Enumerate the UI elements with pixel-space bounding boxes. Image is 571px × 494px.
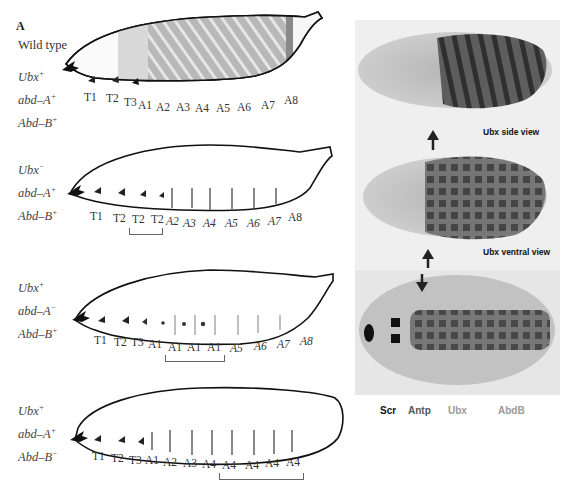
panel-b-photo: Ubx side view Ubx ventral view — [355, 20, 560, 395]
genotype-abd-b: Abd–B+ — [18, 110, 57, 133]
segment-label: A4 — [203, 217, 216, 229]
segment-label: A1 — [187, 341, 201, 353]
segment-label: A7 — [277, 338, 290, 350]
genotype-abd-b: Abd–B+ — [18, 321, 57, 344]
segment-label: T2 — [132, 213, 145, 225]
genotype-row-1: Ubx+ abd–A+ Abd–B+ — [18, 64, 57, 133]
segment-label: A1 — [138, 99, 152, 111]
segment-label: A6 — [237, 101, 251, 113]
segment-label: A1 — [207, 341, 221, 353]
segment-label: T3 — [131, 336, 144, 348]
legend-scr: Scr — [380, 405, 396, 416]
legend-antp: Antp — [408, 405, 431, 416]
segment-label: A4 — [202, 458, 216, 470]
legend-ubx: Ubx — [448, 405, 467, 416]
bracket-row-4 — [219, 473, 304, 480]
ubx-side-view-label: Ubx side view — [483, 127, 539, 137]
legend-abdb: AbdB — [498, 405, 525, 416]
segment-label: A1 — [148, 338, 162, 350]
larva-abd-a-minus — [72, 270, 333, 344]
segment-label: T1 — [94, 334, 107, 346]
segment-label: A4 — [245, 459, 259, 471]
segment-label: T3 — [129, 454, 142, 466]
segment-label: A4 — [265, 457, 279, 469]
genotype-row-4: Ubx+ abd–A+ Abd–B− — [18, 398, 57, 467]
arrow-up-icon — [422, 249, 434, 268]
genotype-ubx: Ubx+ — [18, 64, 57, 87]
segment-label: A6 — [254, 340, 267, 352]
segment-label: A8 — [288, 211, 302, 223]
segment-label: T2 — [113, 212, 126, 224]
segment-label: A4 — [222, 459, 236, 471]
segment-label: A4 — [286, 456, 300, 468]
segment-label: T2 — [151, 213, 164, 225]
segment-label: A2 — [166, 215, 179, 227]
segment-label: A1 — [145, 454, 159, 466]
segment-label: A3 — [183, 217, 196, 229]
embryo-images — [355, 20, 560, 395]
larva-ubx-minus — [67, 145, 332, 211]
segment-label: A8 — [300, 335, 313, 347]
arrow-up-icon — [427, 130, 439, 150]
segment-label: A5 — [230, 342, 243, 354]
segment-label: A5 — [216, 102, 230, 114]
segment-label: A4 — [195, 102, 209, 114]
embryo-multi-gene-view — [359, 275, 555, 385]
genotype-ubx: Ubx+ — [18, 398, 57, 421]
segment-label: T1 — [92, 450, 105, 462]
genotype-ubx: Ubx− — [18, 157, 57, 180]
genotype-abd-a: abd–A+ — [18, 180, 57, 203]
segment-label: A2 — [156, 101, 170, 113]
segment-label: T2 — [111, 452, 124, 464]
segment-label: A3 — [176, 101, 190, 113]
genotype-row-3: Ubx+ abd–A− Abd–B+ — [18, 275, 57, 344]
larva-wild-type — [62, 0, 333, 100]
bracket-row-3 — [165, 355, 225, 362]
segment-label: A8 — [284, 94, 298, 106]
genotype-ubx: Ubx+ — [18, 275, 57, 298]
segment-label: A2 — [163, 456, 177, 468]
wild-type-label: Wild type — [18, 38, 67, 53]
segment-label: A5 — [225, 217, 238, 229]
genotype-row-2: Ubx− abd–A+ Abd–B+ — [18, 157, 57, 226]
segment-label: T1 — [84, 91, 97, 103]
ubx-ventral-view-label: Ubx ventral view — [483, 247, 550, 257]
segment-label: A1 — [168, 341, 182, 353]
genotype-abd-b: Abd–B+ — [18, 203, 57, 226]
bracket-row-2 — [129, 228, 163, 235]
embryo-ventral-view — [363, 156, 547, 239]
genotype-abd-b: Abd–B− — [18, 444, 57, 467]
genotype-abd-a: abd–A+ — [18, 421, 57, 444]
segment-label: A3 — [183, 457, 197, 469]
segment-label: A7 — [261, 99, 275, 111]
embryo-side-view — [358, 32, 552, 108]
segment-label: A6 — [247, 217, 260, 229]
segment-label: T3 — [124, 96, 137, 108]
genotype-abd-a: abd–A+ — [18, 87, 57, 110]
segment-label: T2 — [106, 92, 119, 104]
segment-label: A7 — [268, 215, 281, 227]
segment-label: T1 — [90, 210, 103, 222]
segment-label: T2 — [114, 336, 127, 348]
genotype-abd-a: abd–A− — [18, 298, 57, 321]
